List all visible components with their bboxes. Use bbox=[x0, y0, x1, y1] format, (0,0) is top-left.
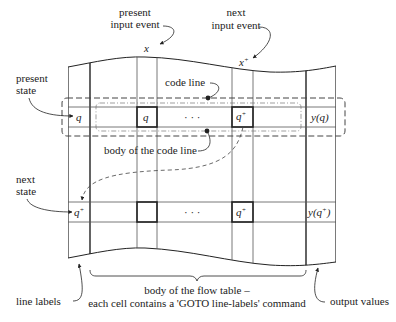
flow-table-annotation: body of the flow table – each cell conta… bbox=[88, 284, 306, 309]
line-labels-annotation: line labels bbox=[16, 264, 82, 307]
svg-text:input event: input event bbox=[211, 19, 260, 31]
code-line-annotation: code line bbox=[165, 76, 219, 100]
present-cell-xplus-text: q+ bbox=[236, 110, 247, 122]
table-top-border bbox=[68, 57, 336, 72]
next-state-label: q+ bbox=[74, 206, 85, 218]
next-input-annotation: next input event bbox=[211, 6, 270, 58]
next-ellipsis: · · · bbox=[184, 206, 201, 218]
svg-text:body of the code line: body of the code line bbox=[104, 144, 197, 156]
svg-text:next: next bbox=[227, 6, 246, 18]
next-input-symbol: x+ bbox=[238, 56, 249, 68]
present-output: y(q) bbox=[310, 111, 329, 124]
present-state-annotation: present state bbox=[16, 72, 73, 116]
present-cell-x-text: q bbox=[143, 111, 149, 123]
next-cell-x bbox=[137, 202, 157, 222]
svg-text:input event: input event bbox=[110, 18, 159, 30]
svg-text:present: present bbox=[16, 72, 48, 84]
svg-text:state: state bbox=[16, 84, 36, 96]
next-state-annotation: next state bbox=[16, 173, 72, 212]
next-cell-xplus-text: q+ bbox=[236, 206, 247, 218]
present-state-label: q bbox=[76, 111, 82, 123]
present-ellipsis: · · · bbox=[184, 111, 201, 123]
svg-text:each cell contains a 'GOTO lin: each cell contains a 'GOTO line-labels' … bbox=[88, 297, 306, 309]
svg-text:output values: output values bbox=[330, 295, 389, 307]
present-input-annotation: present input event bbox=[110, 6, 173, 44]
diagram-canvas: q q · · · q+ y(q) q+ · · · q+ y(q+) x x+… bbox=[0, 0, 396, 322]
svg-text:state: state bbox=[16, 185, 36, 197]
next-output: y(q+) bbox=[307, 206, 331, 219]
flow-table-diagram: q q · · · q+ y(q) q+ · · · q+ y(q+) x x+… bbox=[0, 0, 396, 322]
svg-text:body of the flow table –: body of the flow table – bbox=[144, 284, 250, 296]
table-bottom-border bbox=[68, 248, 336, 266]
svg-text:code line: code line bbox=[165, 76, 205, 88]
output-values-annotation: output values bbox=[315, 268, 389, 307]
flow-table-brace bbox=[90, 270, 306, 281]
svg-text:line labels: line labels bbox=[16, 295, 61, 307]
present-input-symbol: x bbox=[143, 42, 149, 54]
svg-text:next: next bbox=[16, 173, 35, 185]
svg-text:present: present bbox=[119, 6, 151, 18]
code-line-box bbox=[62, 98, 345, 136]
next-state-connector bbox=[82, 127, 243, 200]
